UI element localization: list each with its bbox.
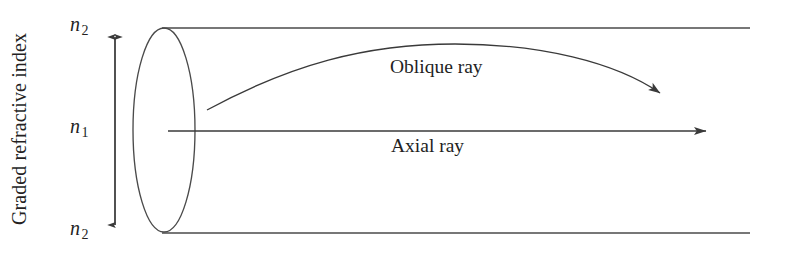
figure-drawing	[0, 0, 786, 258]
n-symbol-bottom: n	[70, 217, 80, 239]
n-subscript-top: 2	[80, 23, 89, 38]
n-symbol-middle: n	[70, 115, 80, 137]
n-subscript-bottom: 2	[80, 227, 89, 242]
graded-index-fiber-figure: Graded refractive index n2 n1 n2 Oblique…	[0, 0, 786, 258]
refractive-index-label-n2-bottom: n2	[70, 218, 89, 242]
fiber-end-face-ellipse	[133, 28, 195, 232]
axial-ray-label: Axial ray	[391, 136, 464, 156]
refractive-index-label-n1-middle: n1	[70, 116, 89, 140]
oblique-ray-label: Oblique ray	[390, 57, 483, 77]
n-subscript-middle: 1	[80, 125, 89, 140]
graded-refractive-index-caption: Graded refractive index	[0, 0, 38, 258]
refractive-index-label-n2-top: n2	[70, 14, 89, 38]
oblique-ray-path	[207, 44, 660, 110]
n-symbol-top: n	[70, 13, 80, 35]
